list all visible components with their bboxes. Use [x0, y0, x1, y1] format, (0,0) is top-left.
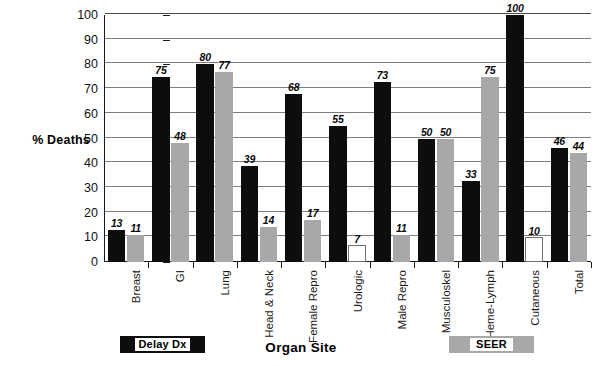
x-axis-tick	[591, 262, 592, 268]
bar-delay-dx: 73	[374, 82, 392, 262]
y-axis-tick-label: 70	[66, 82, 98, 96]
x-axis-category: Urologic	[353, 270, 365, 312]
bar-group: 557	[329, 15, 366, 262]
bar-delay-dx: 33	[462, 181, 480, 263]
bar-value-label: 33	[465, 168, 476, 180]
x-axis-category: GI	[175, 270, 187, 282]
y-axis-tick-label: 100	[66, 8, 98, 22]
x-axis-category: Lung	[220, 270, 232, 296]
x-axis-category-label: Urologic	[353, 270, 365, 312]
bar-group: 6817	[285, 15, 322, 262]
bar-value-label: 55	[332, 113, 343, 125]
x-axis-tick	[325, 262, 326, 268]
bar-delay-dx: 80	[196, 64, 214, 262]
x-axis-category: Female Repro	[308, 270, 320, 343]
y-axis-tick-label: 30	[66, 181, 98, 195]
x-axis-category-label: Lung	[220, 270, 232, 296]
bar-seer: 11	[393, 235, 411, 262]
x-axis-category: Total	[574, 270, 586, 294]
bar-value-label: 44	[573, 140, 584, 152]
bar-seer: 7	[348, 245, 366, 262]
bar-seer: 11	[127, 235, 145, 262]
y-axis-tick-label: 60	[66, 107, 98, 121]
bar-delay-dx: 68	[285, 94, 303, 262]
bar-group: 4644	[551, 15, 588, 262]
x-axis-tick	[148, 262, 149, 268]
x-axis-category-label: Heme-Lymph	[485, 270, 497, 339]
x-axis-tick	[547, 262, 548, 268]
x-axis-category: Breast	[131, 270, 143, 303]
bar-value-label: 10	[528, 225, 539, 237]
x-axis-tick	[237, 262, 238, 268]
x-axis-tick	[281, 262, 282, 268]
x-axis-category: Cutaneous	[530, 270, 542, 326]
y-axis-tick-label: 90	[66, 33, 98, 47]
x-axis-tick	[502, 262, 503, 268]
bar-delay-dx: 50	[418, 139, 436, 263]
bar-value-label: 75	[155, 64, 166, 76]
bar-delay-dx: 13	[108, 230, 126, 262]
bar-delay-dx: 46	[551, 148, 569, 262]
bar-value-label: 75	[484, 64, 495, 76]
bar-value-label: 80	[200, 51, 211, 63]
x-axis-category-label: Male Repro	[397, 270, 409, 329]
bar-value-label: 7	[354, 233, 360, 245]
bar-value-label: 17	[307, 207, 318, 219]
x-axis-category-label: Head & Neck	[264, 270, 276, 338]
bar-seer: 75	[481, 77, 499, 262]
bar-group: 8077	[196, 15, 233, 262]
bar-seer: 10	[525, 237, 543, 262]
bar-seer: 77	[215, 72, 233, 262]
bar-delay-dx: 75	[152, 77, 170, 262]
x-axis-category-label: GI	[175, 270, 187, 282]
bar-value-label: 48	[174, 130, 185, 142]
bar-value-label: 13	[111, 217, 122, 229]
bar-delay-dx: 100	[506, 15, 524, 262]
y-axis-tick-label: 50	[66, 132, 98, 146]
y-axis-tick-label: 10	[66, 230, 98, 244]
bar-group: 10010	[506, 15, 543, 262]
y-axis-tick-label: 0	[66, 255, 98, 269]
bar-value-label: 11	[396, 222, 407, 234]
bar-seer: 14	[260, 227, 278, 262]
bar-seer: 48	[171, 143, 189, 262]
bar-group: 1311	[108, 15, 145, 262]
x-axis-tick	[193, 262, 194, 268]
x-axis-category: Male Repro	[397, 270, 409, 329]
x-axis-category: Musculoskel	[441, 270, 453, 333]
y-axis-tick-label: 80	[66, 57, 98, 71]
x-axis-tick	[370, 262, 371, 268]
x-axis-category-labels: BreastGILungHead & NeckFemale ReproUrolo…	[104, 270, 591, 332]
bar-group: 7311	[374, 15, 411, 262]
bar-value-label: 68	[288, 81, 299, 93]
x-axis-category-label: Female Repro	[308, 270, 320, 343]
bar-group: 7548	[152, 15, 189, 262]
bar-value-label: 14	[263, 214, 274, 226]
y-axis-tick-label: 20	[66, 206, 98, 220]
bar-delay-dx: 39	[241, 166, 259, 262]
x-axis-category-label: Cutaneous	[530, 270, 542, 326]
x-axis-tick	[414, 262, 415, 268]
bar-value-label: 39	[244, 153, 255, 165]
bar-seer: 50	[437, 139, 455, 263]
legend-item-seer: SEER	[449, 336, 534, 353]
bar-chart: % Deaths 0102030405060708090100 13117548…	[0, 0, 602, 366]
bar-seer: 44	[570, 153, 588, 262]
x-axis-category-label: Total	[574, 270, 586, 294]
legend-item-delay-dx: Delay Dx	[120, 336, 205, 353]
x-axis-category: Heme-Lymph	[485, 270, 497, 339]
bar-group: 3914	[241, 15, 278, 262]
bar-groups: 1311754880773914681755773115050337510010…	[104, 15, 591, 262]
bar-delay-dx: 55	[329, 126, 347, 262]
bar-group: 3375	[462, 15, 499, 262]
bar-seer: 17	[304, 220, 322, 262]
bar-group: 5050	[418, 15, 455, 262]
bar-value-label: 50	[421, 126, 432, 138]
bar-value-label: 100	[507, 2, 524, 14]
x-axis-category-label: Breast	[131, 270, 143, 303]
x-axis-tick	[458, 262, 459, 268]
bar-value-label: 11	[130, 222, 141, 234]
x-axis-category-label: Musculoskel	[441, 270, 453, 333]
y-axis-tick-labels: 0102030405060708090100	[66, 0, 98, 277]
legend-label-delay-dx: Delay Dx	[135, 338, 189, 351]
